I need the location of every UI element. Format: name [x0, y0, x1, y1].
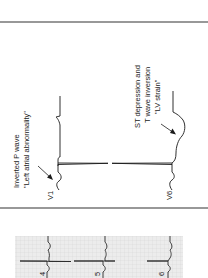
ecg-strip-grid [15, 236, 183, 278]
lead-label-v1: V1 [46, 191, 55, 200]
lead-label-v6: V6 [165, 191, 174, 200]
strip-lead-6-label: 6 [157, 272, 166, 276]
v1-arrow-icon [38, 166, 53, 180]
v1-annotation-line1: Inverted P wave [12, 134, 21, 188]
strip-lead-5-label: 5 [93, 272, 102, 276]
strip-lead-4-label: 4 [38, 272, 47, 276]
v1-trace [56, 96, 108, 190]
v6-arrow-icon [161, 124, 176, 135]
v6-annotation-line2: T wave inversion [143, 67, 152, 123]
v1-annotation-line2: "Left atrial abnormality" [22, 111, 31, 188]
v6-annotation-line3: "LV strain" [153, 79, 162, 114]
ecg-diagram: V1 Inverted P wave "Left atrial abnormal… [0, 0, 208, 278]
v6-annotation-line1: ST depression and [133, 65, 142, 128]
